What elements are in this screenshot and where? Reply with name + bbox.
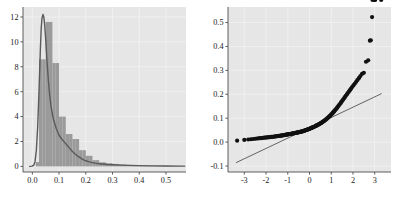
y-axis-tick-label: 0.4 (213, 42, 223, 51)
y-axis-tick-label: 12 (10, 13, 18, 22)
y-axis-tick-label: 4 (14, 112, 18, 121)
normal-qq-plot-svg: -3-2-10123-0.10.00.10.20.30.40.5 (197, 0, 394, 200)
histogram-bar (59, 117, 62, 167)
normal-qq-plot-panel: -3-2-10123-0.10.00.10.20.30.40.5 (197, 0, 394, 200)
histogram-bar (66, 134, 69, 166)
x-axis-tick-label: -1 (284, 176, 291, 185)
y-axis-tick-label: 2 (14, 137, 18, 146)
qq-point (366, 58, 370, 62)
y-axis-tick-label: 0 (14, 162, 18, 171)
y-axis-tick-label: 0.1 (213, 114, 223, 123)
x-axis-tick-label: 0.2 (81, 176, 91, 185)
density-histogram-svg: 0.00.10.20.30.40.5024681012 (0, 0, 197, 200)
y-axis-tick-label: 6 (14, 88, 18, 97)
y-axis-tick-label: 0.2 (213, 90, 223, 99)
qq-point (362, 71, 366, 75)
x-axis-tick-label: 0.5 (161, 176, 171, 185)
x-axis-tick-label: 2 (351, 176, 355, 185)
histogram-bar (56, 63, 59, 166)
y-axis-tick-label: 0.3 (213, 66, 223, 75)
histogram-bar (76, 139, 79, 166)
x-axis-tick-label: 3 (373, 176, 377, 185)
x-axis-tick-label: -3 (241, 176, 248, 185)
histogram-bar (82, 150, 85, 166)
qq-point (242, 138, 246, 142)
density-histogram-panel: 0.00.10.20.30.40.5024681012 (0, 0, 197, 200)
histogram-bar (36, 162, 39, 166)
qq-point (235, 139, 239, 143)
x-axis-tick-label: 0.3 (107, 176, 117, 185)
y-axis-tick-label: 0.0 (213, 138, 223, 147)
qq-point (370, 15, 374, 19)
x-axis-tick-label: 0.1 (54, 176, 64, 185)
x-axis-tick-label: 1 (329, 176, 333, 185)
y-axis-tick-label: 0.5 (213, 18, 223, 27)
histogram-bar (42, 59, 45, 166)
y-axis-tick-label: 8 (14, 63, 18, 72)
qq-point (369, 38, 373, 42)
x-axis-tick-label: 0.4 (134, 176, 144, 185)
figure-container: 0.00.10.20.30.40.5024681012 -3-2-10123-0… (0, 0, 394, 200)
qq-point (379, 0, 383, 2)
histogram-bar (89, 156, 92, 167)
x-axis-tick-label: -2 (263, 176, 270, 185)
x-axis-tick-label: 0 (307, 176, 311, 185)
y-axis-tick-label: -0.1 (211, 162, 224, 171)
y-axis-tick-label: 10 (10, 38, 18, 47)
x-axis-tick-label: 0.0 (27, 176, 37, 185)
